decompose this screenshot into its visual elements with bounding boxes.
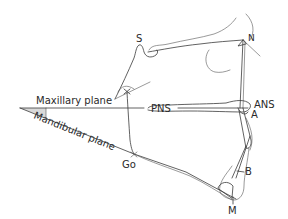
label-gonion: Go	[122, 159, 136, 170]
mandible-lower-border	[134, 154, 232, 200]
label-pns: PNS	[151, 103, 171, 114]
label-menton: M	[228, 205, 237, 216]
label-sella: S	[136, 33, 142, 44]
label-a-point: A	[251, 109, 258, 120]
label-mandibular-plane: Mandibular plane	[32, 110, 117, 153]
sella-contour	[115, 45, 158, 99]
label-maxillary-plane: Maxillary plane	[36, 95, 112, 106]
ramus-line	[127, 92, 134, 154]
ba-line	[115, 82, 150, 99]
sn-line	[148, 40, 243, 52]
label-nasion: N	[248, 33, 255, 43]
label-b-point: B	[245, 166, 252, 177]
n-a-line	[240, 40, 243, 108]
diagram-svg: S N Maxillary plane PNS ANS A Mandibular…	[0, 0, 288, 219]
orbit-arc	[206, 50, 230, 72]
cephalometric-diagram: S N Maxillary plane PNS ANS A Mandibular…	[0, 0, 288, 219]
n-line-inner	[243, 42, 245, 108]
